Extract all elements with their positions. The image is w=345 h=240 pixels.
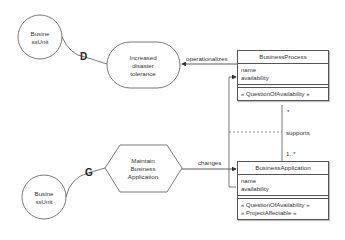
class-attributes: name availability [238, 175, 328, 196]
business-unit-label-bottom: Busine ssUnit [35, 190, 54, 206]
operationalizes-label: operationalizes [186, 55, 228, 63]
multiplicity-top: * [287, 108, 289, 116]
connector-glyph-bottom: G [85, 167, 93, 180]
class-name: BusinessApplication [238, 162, 328, 175]
class-operations: « QuestionOfAvailability » » ProjectAffe… [238, 199, 328, 219]
process-step-label: Maintain Business Application [128, 157, 158, 180]
class-name: BusinessProcess [238, 51, 328, 64]
goal-label: Increased disaster tolerance [129, 54, 156, 77]
supports-label: supports [286, 129, 310, 137]
connector-glyph-top: D [80, 51, 87, 64]
multiplicity-bottom: 1..* [286, 150, 295, 158]
class-operations: « QuestionOfAvailability » [238, 88, 328, 100]
changes-label: changes [198, 159, 221, 167]
class-business-process[interactable]: BusinessProcess name availability « Ques… [237, 50, 329, 101]
business-unit-label-top: Busine ssUnit [31, 30, 50, 46]
class-business-application[interactable]: BusinessApplication name availability « … [237, 161, 329, 220]
class-attributes: name availability [238, 64, 328, 85]
